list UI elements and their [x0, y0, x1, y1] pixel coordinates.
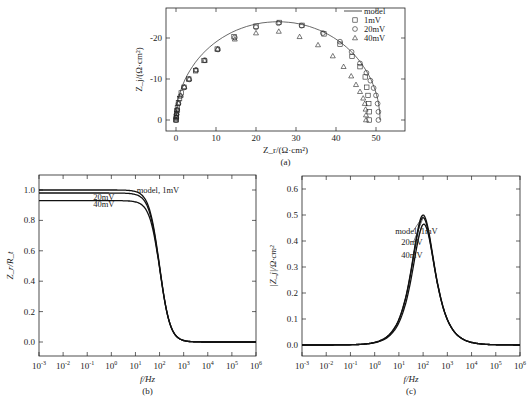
x-tick-label: 106	[514, 360, 526, 371]
plot-frame	[302, 176, 520, 356]
circle-marker	[375, 101, 380, 106]
curve-annotation: 40mV	[93, 199, 115, 209]
legend-label: 40mV	[364, 33, 386, 43]
triangle-marker	[254, 30, 259, 34]
x-tick-label: 10-3	[32, 360, 46, 371]
y-tick-label: 0.0	[24, 337, 36, 347]
y-tick-label: 0.2	[24, 307, 35, 317]
x-tick-label: 101	[393, 360, 405, 371]
y-tick-label: 0.1	[287, 314, 298, 324]
y-tick-label: 1.0	[24, 185, 36, 195]
x-tick-label: 10-1	[80, 360, 94, 371]
x-tick-label: 104	[466, 360, 478, 371]
y-tick-label: 0.3	[287, 262, 299, 272]
x-tick-label: 105	[490, 360, 502, 371]
circle-marker	[376, 118, 381, 123]
triangle-marker	[316, 42, 321, 46]
y-tick-label: 0.4	[287, 236, 299, 246]
triangle-marker	[358, 89, 363, 93]
x-tick-label: 30	[292, 133, 302, 143]
x-tick-label: 100	[105, 360, 117, 371]
x-tick-label: 10	[212, 133, 222, 143]
panel-caption: (a)	[281, 157, 291, 167]
series-20mV	[174, 21, 381, 123]
square-marker	[350, 54, 354, 58]
curve-annotation: model, 1mV	[137, 185, 180, 195]
triangle-marker	[276, 29, 281, 33]
series-curve-1	[39, 193, 256, 342]
x-tick-label: 20	[252, 133, 262, 143]
triangle-marker	[363, 107, 368, 111]
legend: model1mV20mV40mV	[344, 6, 386, 43]
x-tick-label: 103	[441, 360, 453, 371]
plot-frame	[39, 175, 256, 356]
y-tick-label: 0.6	[287, 184, 299, 194]
y-tick-label: 0.0	[287, 340, 299, 350]
x-axis-label: f/Hz	[140, 374, 156, 384]
x-tick-label: 0	[174, 133, 179, 143]
x-tick-label: 50	[372, 133, 382, 143]
curve-annotation: 40mV	[401, 250, 423, 260]
series-1mV	[174, 20, 372, 122]
x-tick-label: 101	[129, 360, 141, 371]
panel-caption: (b)	[142, 386, 153, 396]
real-impedance-bode-panel: 10-310-210-11001011021031041051060.00.20…	[5, 175, 262, 396]
y-tick-label: 0.4	[24, 276, 36, 286]
series-curve-2	[39, 201, 256, 342]
model-curve	[176, 22, 380, 120]
y-tick-label: 0.6	[24, 246, 36, 256]
x-axis-label: Z_r/(Ω·cm²)	[263, 145, 308, 155]
nyquist-plot-panel: 010203040500-10-20model1mV20mV40mVZ_r/(Ω…	[134, 6, 405, 167]
y-tick-label: 0.8	[24, 215, 36, 225]
x-tick-label: 40	[332, 133, 342, 143]
triangle-marker	[364, 112, 369, 116]
x-tick-label: 106	[250, 360, 262, 371]
circle-marker	[376, 109, 381, 114]
y-tick-label: 0.5	[287, 210, 299, 220]
curve-annotation: 20mV	[401, 237, 423, 247]
triangle-marker	[361, 96, 366, 100]
square-marker	[366, 93, 370, 97]
x-tick-label: 10-2	[319, 360, 333, 371]
x-tick-label: 102	[154, 360, 166, 371]
triangle-marker	[330, 53, 335, 57]
x-tick-label: 100	[369, 360, 381, 371]
x-tick-label: 102	[417, 360, 429, 371]
y-axis-label: |Z_j|/Ω·cm²	[268, 245, 278, 287]
figure: 010203040500-10-20model1mV20mV40mVZ_r/(Ω…	[0, 0, 532, 404]
square-marker	[365, 85, 369, 89]
y-tick-label: 0	[158, 115, 163, 125]
y-axis-label: Z_j/(Ω·cm²)	[134, 47, 144, 91]
y-axis-label: Z_r/R_t	[5, 251, 15, 280]
x-tick-label: 104	[202, 360, 214, 371]
circle-marker	[353, 27, 358, 32]
x-tick-label: 105	[226, 360, 238, 371]
imaginary-impedance-bode-panel: 10-310-210-11001011021031041051060.00.10…	[268, 176, 526, 396]
triangle-marker	[341, 64, 346, 68]
y-tick-label: 0.2	[287, 288, 298, 298]
x-axis-label: f/Hz	[403, 374, 419, 384]
triangle-marker	[354, 82, 359, 86]
x-tick-label: 103	[178, 360, 190, 371]
y-tick-label: -10	[150, 74, 162, 84]
series-40mV	[174, 29, 369, 122]
panel-caption: (c)	[406, 386, 416, 396]
triangle-marker	[353, 35, 358, 39]
y-tick-label: -20	[150, 33, 162, 43]
triangle-marker	[297, 34, 302, 38]
triangle-marker	[349, 74, 354, 78]
square-marker	[353, 18, 357, 22]
x-tick-label: 10-3	[295, 360, 309, 371]
x-tick-label: 10-1	[343, 360, 357, 371]
circle-marker	[254, 25, 259, 30]
x-tick-label: 10-2	[56, 360, 70, 371]
